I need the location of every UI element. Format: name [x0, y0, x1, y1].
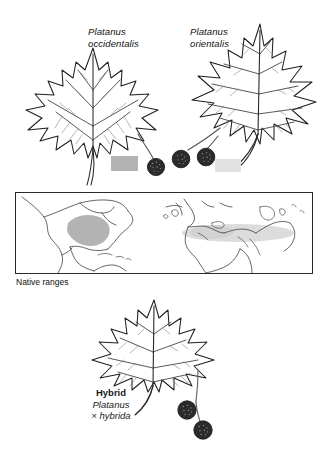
range-shade-occidentalis-blob: [68, 217, 110, 246]
species-panel-occidentalis: Platanus occidentalis: [0, 0, 175, 190]
seed-ball-group-hybrid: [172, 368, 242, 446]
species-genus-occidentalis: Platanus: [88, 26, 126, 37]
seed-ball-group-orientalis: [164, 126, 236, 182]
species-panel-orientalis: Platanus orientalis: [160, 0, 330, 190]
hybrid-label-line1: Hybrid: [70, 387, 152, 399]
map-caption-native-ranges: Native ranges: [16, 277, 68, 287]
hybrid-label-line3: × hybrida: [70, 410, 152, 422]
platanus-comparison-figure: Platanus occidentalis: [0, 0, 330, 453]
world-map-svg: [16, 193, 312, 273]
hybrid-panel: Hybrid Platanus × hybrida: [60, 292, 280, 453]
hybrid-label: Hybrid Platanus × hybrida: [70, 387, 152, 422]
native-range-map: [15, 192, 313, 274]
hybrid-label-line2: Platanus: [70, 399, 152, 411]
